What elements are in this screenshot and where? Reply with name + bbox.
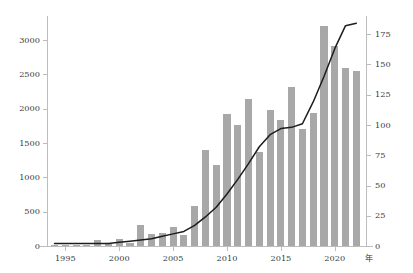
cumulative-line [55,23,357,243]
chart-figure: 050010001500200025003000 025507510012515… [0,0,413,273]
line-series [0,0,413,273]
x-axis-caption: 年 [361,254,377,262]
